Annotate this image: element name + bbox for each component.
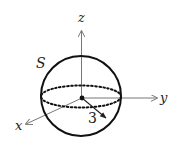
z-axis-label: z	[77, 10, 85, 25]
y-axis-label: y	[159, 90, 168, 105]
radius-label: 3	[88, 110, 97, 126]
sphere-diagram: z y x S 3	[0, 0, 181, 150]
x-axis	[26, 98, 82, 124]
surface-label: S	[36, 55, 46, 71]
center-point	[80, 96, 85, 101]
x-axis-label: x	[15, 118, 23, 133]
